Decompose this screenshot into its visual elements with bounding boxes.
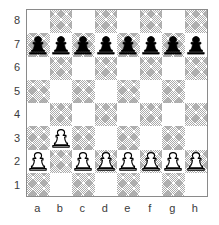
board-square-f4[interactable] — [140, 103, 163, 126]
chess-board[interactable] — [26, 9, 208, 197]
board-square-a5[interactable] — [27, 80, 50, 103]
file-label-g: g — [161, 199, 184, 217]
file-label-h: h — [184, 199, 207, 217]
board-square-f7[interactable] — [140, 33, 163, 56]
rank-label-3: 3 — [4, 127, 23, 151]
white-pawn-icon[interactable] — [186, 151, 205, 171]
board-square-d6[interactable] — [95, 57, 118, 80]
board-square-a6[interactable] — [27, 57, 50, 80]
board-square-g8[interactable] — [162, 10, 185, 33]
board-square-g7[interactable] — [162, 33, 185, 56]
file-label-c: c — [71, 199, 94, 217]
board-square-g3[interactable] — [162, 126, 185, 149]
file-label-b: b — [49, 199, 72, 217]
white-pawn-icon[interactable] — [164, 151, 183, 171]
white-pawn-icon[interactable] — [51, 128, 70, 148]
file-label-f: f — [139, 199, 162, 217]
black-pawn-icon[interactable] — [186, 35, 205, 55]
board-square-b1[interactable] — [50, 173, 73, 196]
board-square-f6[interactable] — [140, 57, 163, 80]
file-label-a: a — [26, 199, 49, 217]
board-square-a3[interactable] — [27, 126, 50, 149]
board-square-c4[interactable] — [72, 103, 95, 126]
board-square-f3[interactable] — [140, 126, 163, 149]
board-square-e6[interactable] — [117, 57, 140, 80]
board-square-c8[interactable] — [72, 10, 95, 33]
rank-label-5: 5 — [4, 80, 23, 104]
board-square-d8[interactable] — [95, 10, 118, 33]
black-pawn-icon[interactable] — [96, 35, 115, 55]
board-square-e7[interactable] — [117, 33, 140, 56]
board-square-h7[interactable] — [185, 33, 208, 56]
white-pawn-icon[interactable] — [141, 151, 160, 171]
black-pawn-icon[interactable] — [74, 35, 93, 55]
board-square-g2[interactable] — [162, 150, 185, 173]
board-square-b2[interactable] — [50, 150, 73, 173]
board-square-a4[interactable] — [27, 103, 50, 126]
file-label-d: d — [94, 199, 117, 217]
board-square-f8[interactable] — [140, 10, 163, 33]
board-square-h5[interactable] — [185, 80, 208, 103]
black-pawn-icon[interactable] — [164, 35, 183, 55]
board-square-b4[interactable] — [50, 103, 73, 126]
board-square-d7[interactable] — [95, 33, 118, 56]
chess-diagram: 87654321 abcdefgh — [0, 0, 219, 225]
board-square-f2[interactable] — [140, 150, 163, 173]
board-square-c3[interactable] — [72, 126, 95, 149]
board-square-g1[interactable] — [162, 173, 185, 196]
board-square-c6[interactable] — [72, 57, 95, 80]
board-square-h8[interactable] — [185, 10, 208, 33]
board-square-d3[interactable] — [95, 126, 118, 149]
board-square-e1[interactable] — [117, 173, 140, 196]
white-pawn-icon[interactable] — [29, 151, 48, 171]
board-square-d4[interactable] — [95, 103, 118, 126]
rank-label-7: 7 — [4, 33, 23, 57]
board-square-f5[interactable] — [140, 80, 163, 103]
white-pawn-icon[interactable] — [96, 151, 115, 171]
board-square-c2[interactable] — [72, 150, 95, 173]
board-square-e2[interactable] — [117, 150, 140, 173]
board-square-b7[interactable] — [50, 33, 73, 56]
board-square-c5[interactable] — [72, 80, 95, 103]
board-square-h6[interactable] — [185, 57, 208, 80]
board-square-d5[interactable] — [95, 80, 118, 103]
black-pawn-icon[interactable] — [51, 35, 70, 55]
chess-board-grid[interactable] — [27, 10, 207, 196]
file-label-e: e — [116, 199, 139, 217]
board-square-g5[interactable] — [162, 80, 185, 103]
board-square-e3[interactable] — [117, 126, 140, 149]
board-square-c7[interactable] — [72, 33, 95, 56]
board-square-b3[interactable] — [50, 126, 73, 149]
board-square-a2[interactable] — [27, 150, 50, 173]
board-square-d2[interactable] — [95, 150, 118, 173]
black-pawn-icon[interactable] — [29, 35, 48, 55]
board-square-a1[interactable] — [27, 173, 50, 196]
black-pawn-icon[interactable] — [119, 35, 138, 55]
rank-label-8: 8 — [4, 9, 23, 33]
board-square-c1[interactable] — [72, 173, 95, 196]
board-square-e4[interactable] — [117, 103, 140, 126]
board-square-e5[interactable] — [117, 80, 140, 103]
board-square-g6[interactable] — [162, 57, 185, 80]
rank-label-column: 87654321 — [4, 9, 23, 197]
board-square-b5[interactable] — [50, 80, 73, 103]
board-square-b6[interactable] — [50, 57, 73, 80]
board-square-h2[interactable] — [185, 150, 208, 173]
file-label-row: abcdefgh — [26, 199, 208, 217]
board-square-a7[interactable] — [27, 33, 50, 56]
white-pawn-icon[interactable] — [119, 151, 138, 171]
board-square-d1[interactable] — [95, 173, 118, 196]
board-square-g4[interactable] — [162, 103, 185, 126]
board-square-f1[interactable] — [140, 173, 163, 196]
board-square-b8[interactable] — [50, 10, 73, 33]
black-pawn-icon[interactable] — [141, 35, 160, 55]
board-square-a8[interactable] — [27, 10, 50, 33]
rank-label-2: 2 — [4, 150, 23, 174]
board-square-h4[interactable] — [185, 103, 208, 126]
board-square-h1[interactable] — [185, 173, 208, 196]
board-square-h3[interactable] — [185, 126, 208, 149]
board-square-e8[interactable] — [117, 10, 140, 33]
rank-label-4: 4 — [4, 103, 23, 127]
white-pawn-icon[interactable] — [74, 151, 93, 171]
rank-label-1: 1 — [4, 174, 23, 198]
